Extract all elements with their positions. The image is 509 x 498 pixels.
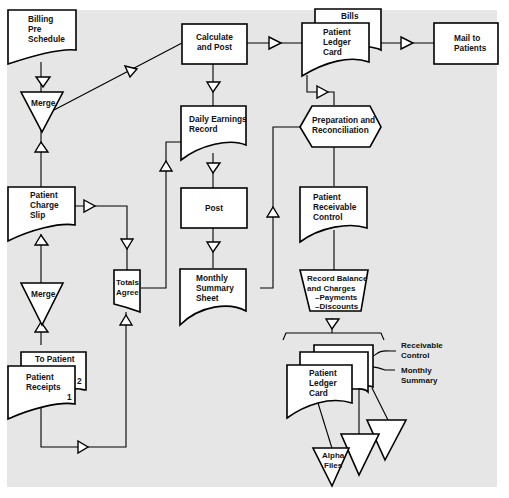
- node-label: Merge: [31, 98, 56, 108]
- annotation-label: Monthly: [401, 366, 432, 375]
- node-label: Bills: [341, 11, 359, 21]
- node-label: Record: [189, 124, 218, 134]
- annotation-label: Control: [401, 351, 429, 360]
- node-label: Pre: [28, 24, 42, 34]
- copy-number: 1: [67, 392, 72, 402]
- node-label: Files: [324, 461, 343, 470]
- preparation-and-reconciliation-hexagon[interactable]: Preparation and Reconciliation: [300, 106, 381, 147]
- node-label: Schedule: [28, 34, 65, 44]
- node-label: Summary: [196, 283, 234, 293]
- node-label: Merge: [31, 289, 56, 299]
- node-label: Post: [205, 203, 223, 213]
- node-label: Sheet: [196, 293, 219, 303]
- totals-agree-document[interactable]: Totals Agree: [114, 270, 140, 312]
- node-label: Preparation and: [312, 115, 375, 125]
- node-label: Billing: [28, 14, 53, 24]
- node-label: Monthly: [196, 273, 228, 283]
- node-label: Ledger: [323, 37, 351, 47]
- node-label: Patient: [323, 27, 351, 37]
- record-balance-and-charges-manual-operation[interactable]: Record Balance and Charges –Payments –Di…: [300, 270, 368, 311]
- calculate-and-post-process[interactable]: Calculate and Post: [182, 24, 247, 64]
- node-label: –Discounts: [315, 302, 359, 311]
- node-label: Patient: [313, 192, 341, 202]
- node-label: Charge: [30, 200, 59, 210]
- node-label: Card: [323, 47, 342, 57]
- node-label: Receipts: [26, 382, 61, 392]
- node-label: Control: [313, 212, 343, 222]
- node-label: Patient: [26, 372, 54, 382]
- node-label: Agree: [116, 288, 139, 297]
- copy-number: 2: [77, 376, 82, 386]
- node-label: Daily Earnings: [189, 114, 247, 124]
- node-label: Reconciliation: [312, 125, 369, 135]
- node-label: Calculate: [196, 32, 233, 42]
- annotation-label: Summary: [401, 376, 438, 385]
- node-label: Slip: [30, 210, 45, 220]
- node-label: Card: [309, 388, 328, 398]
- diagram-background: [7, 10, 497, 487]
- node-label: Patient: [30, 190, 58, 200]
- node-label: Receivable: [313, 202, 357, 212]
- node-label: Record Balance: [307, 274, 368, 283]
- flowchart-canvas: Billing Pre Schedule Merge Patient Charg…: [0, 0, 509, 498]
- node-label: –Payments: [315, 293, 358, 302]
- node-label: and Charges: [307, 284, 356, 293]
- node-label: Patient: [309, 368, 337, 378]
- node-label: Alpha: [322, 451, 345, 460]
- mail-to-patients-process[interactable]: Mail to Patients: [434, 23, 498, 64]
- node-label: Patients: [454, 43, 487, 53]
- node-label: To Patient: [35, 354, 75, 364]
- node-label: Totals: [116, 278, 140, 287]
- node-label: Mail to: [454, 33, 480, 43]
- node-label: and Post: [197, 42, 232, 52]
- post-process[interactable]: Post: [181, 188, 247, 228]
- annotation-label: Receivable: [401, 341, 443, 350]
- node-label: Ledger: [309, 378, 337, 388]
